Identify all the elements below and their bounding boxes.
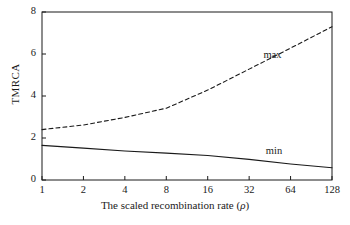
x-tick-label: 4 (105, 185, 145, 196)
x-tick-label: 128 (312, 185, 350, 196)
series-line-min (42, 145, 332, 167)
series-annotation-max: max (263, 49, 281, 60)
x-tick-label: 64 (271, 185, 311, 196)
y-tick-label: 4 (0, 90, 36, 101)
y-tick-label: 6 (0, 48, 36, 59)
x-tick-label: 8 (146, 185, 186, 196)
x-tick-label: 32 (229, 185, 269, 196)
y-tick-label: 2 (0, 132, 36, 143)
x-tick-label: 2 (63, 185, 103, 196)
y-tick-label: 0 (0, 174, 36, 185)
x-tick-label: 16 (188, 185, 228, 196)
chart-figure: TMRCA The scaled recombination rate (ρ) … (0, 0, 350, 225)
series-line-max (42, 27, 332, 130)
series-annotation-min: min (266, 145, 282, 156)
x-tick-label: 1 (22, 185, 62, 196)
y-tick-label: 8 (0, 6, 36, 17)
